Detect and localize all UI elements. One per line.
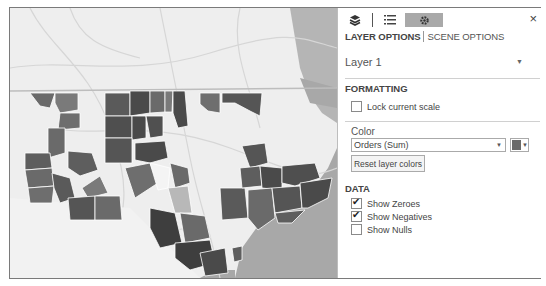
layer-pane: × LAYER OPTIONS SCENE OPTIONS Layer 1 ▼ … (337, 8, 541, 278)
checkbox-box[interactable]: ✔ (351, 198, 362, 209)
show-nulls-checkbox[interactable]: Show Nulls (351, 224, 412, 235)
color-label: Color (351, 126, 375, 137)
tab-scene-options[interactable]: SCENE OPTIONS (427, 31, 504, 42)
settings-icon[interactable] (405, 13, 443, 27)
section-divider (345, 121, 540, 122)
layer-dropdown-value: Layer 1 (345, 56, 382, 68)
chevron-down-icon: ▼ (522, 142, 528, 148)
choropleth-map[interactable] (10, 8, 337, 278)
show-negatives-checkbox[interactable]: ✔ Show Negatives (351, 211, 432, 222)
data-heading: DATA (345, 183, 370, 194)
field-list-icon[interactable] (381, 12, 399, 28)
options-tabs: LAYER OPTIONS SCENE OPTIONS (345, 31, 504, 42)
reset-layer-colors-button[interactable]: Reset layer colors (351, 155, 425, 172)
checkbox-box[interactable]: ✔ (351, 211, 362, 222)
lock-scale-checkbox[interactable]: Lock current scale (351, 101, 440, 112)
color-field-select[interactable]: Orders (Sum) ▼ (351, 138, 506, 152)
layers-icon[interactable] (346, 12, 364, 28)
map-canvas[interactable] (10, 8, 337, 278)
chevron-down-icon: ▼ (516, 58, 523, 65)
layer-dropdown[interactable]: Layer 1 ▼ (345, 56, 523, 68)
color-field-value: Orders (Sum) (354, 140, 409, 150)
chevron-down-icon: ▼ (496, 139, 502, 151)
tab-divider (423, 31, 424, 42)
show-zeroes-label: Show Zeroes (367, 199, 420, 209)
checkmark-icon: ✔ (352, 196, 360, 208)
checkbox-box[interactable] (351, 101, 362, 112)
section-divider (345, 78, 540, 79)
lock-scale-label: Lock current scale (367, 102, 440, 112)
color-swatch-button[interactable]: ▼ (510, 138, 529, 152)
checkmark-icon: ✔ (352, 209, 360, 221)
tab-layer-options[interactable]: LAYER OPTIONS (345, 31, 420, 42)
close-button[interactable]: × (529, 11, 537, 26)
pane-toolbar (346, 12, 443, 28)
window: × LAYER OPTIONS SCENE OPTIONS Layer 1 ▼ … (9, 7, 541, 279)
toolbar-divider (372, 13, 373, 27)
show-zeroes-checkbox[interactable]: ✔ Show Zeroes (351, 198, 420, 209)
checkbox-box[interactable] (351, 224, 362, 235)
color-swatch (512, 140, 521, 150)
show-negatives-label: Show Negatives (367, 212, 432, 222)
show-nulls-label: Show Nulls (367, 225, 412, 235)
formatting-heading: FORMATTING (345, 83, 408, 94)
